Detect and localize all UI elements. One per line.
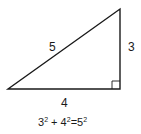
eq-a-exp: 2 — [44, 116, 48, 123]
hypotenuse-label: 5 — [49, 41, 56, 53]
pythagorean-equation: 32 + 42=52 — [38, 116, 87, 128]
triangle — [8, 9, 120, 89]
right-angle-marker — [112, 81, 120, 89]
triangle-figure — [0, 0, 141, 134]
eq-plus: + — [51, 116, 57, 128]
eq-c-exp: 2 — [83, 116, 87, 123]
vertical-leg-label: 3 — [128, 41, 135, 53]
horizontal-leg-label: 4 — [61, 97, 68, 109]
